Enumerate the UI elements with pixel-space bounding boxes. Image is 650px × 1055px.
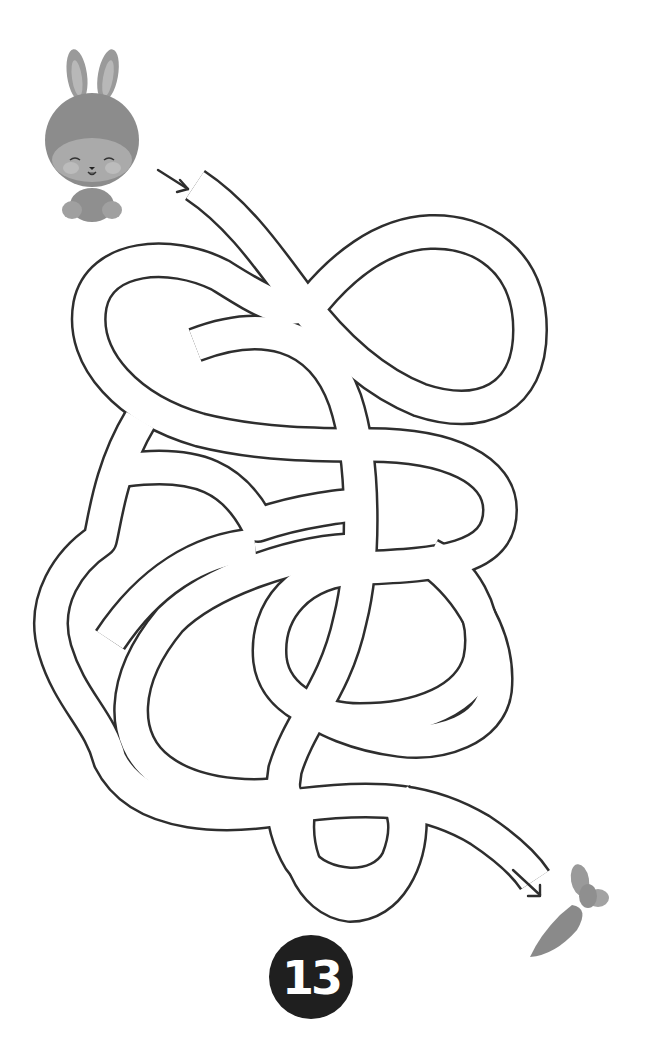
page-number: 13 [282, 951, 340, 1005]
start-arrow-icon [158, 170, 188, 192]
maze-paths [51, 185, 535, 905]
carrot-icon [530, 863, 609, 957]
bunny-icon [45, 48, 139, 222]
page-number-badge: 13 [269, 935, 353, 1019]
maze-page: 13 [0, 0, 650, 1055]
